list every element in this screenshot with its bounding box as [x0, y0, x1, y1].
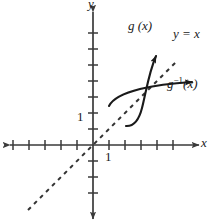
- y-axis: [88, 12, 98, 219]
- g-inverse-argument: (x): [183, 76, 197, 91]
- y-axis-tick-label-one: 1: [77, 110, 84, 123]
- y-axis-label: y: [88, 0, 94, 10]
- curve-label-g-of-x: g (x): [128, 19, 152, 32]
- curve-label-g-inverse-of-x: g−1(x): [167, 76, 198, 90]
- curve-label-y-equals-x: y = x: [173, 27, 200, 40]
- x-axis-label: x: [201, 136, 207, 149]
- identity-line-y-equals-x: [28, 60, 178, 210]
- g-inverse-exponent: −1: [174, 75, 184, 85]
- x-axis-tick-label-one: 1: [105, 150, 112, 163]
- math-graph-figure: g (x) y = x g−1(x) x y 1 1: [0, 0, 214, 224]
